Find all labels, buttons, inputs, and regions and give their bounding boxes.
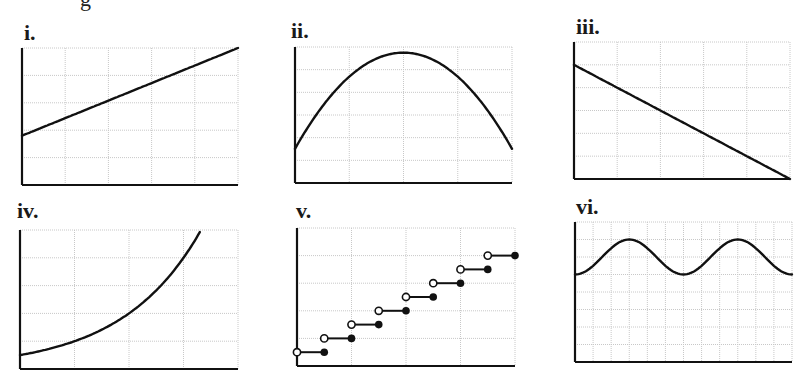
graph-1	[22, 48, 238, 185]
open-circle-marker	[484, 252, 491, 259]
closed-circle-marker	[320, 348, 328, 356]
closed-circle-marker	[402, 307, 410, 315]
open-circle-marker	[457, 266, 464, 273]
open-circle-marker	[293, 349, 300, 356]
open-circle-marker	[348, 321, 355, 328]
graph-3	[574, 42, 790, 179]
function-curve	[574, 65, 790, 179]
curve-1	[22, 48, 238, 136]
open-circle-marker	[402, 293, 409, 300]
closed-circle-marker	[457, 279, 465, 287]
curve-4	[20, 232, 200, 355]
curve-layer	[20, 48, 792, 356]
open-circle-marker	[375, 307, 382, 314]
closed-circle-marker	[429, 293, 437, 301]
function-curve	[22, 48, 238, 136]
closed-circle-marker	[348, 335, 356, 343]
function-curve	[20, 232, 200, 355]
closed-circle-marker	[484, 266, 492, 274]
graph-6	[575, 222, 792, 362]
graph-2	[295, 47, 512, 183]
closed-circle-marker	[511, 252, 519, 260]
grid-layer	[20, 42, 792, 369]
closed-circle-marker	[375, 321, 383, 329]
open-circle-marker	[430, 280, 437, 287]
graphs-canvas	[0, 0, 798, 384]
curve-3	[574, 65, 790, 179]
open-circle-marker	[321, 335, 328, 342]
